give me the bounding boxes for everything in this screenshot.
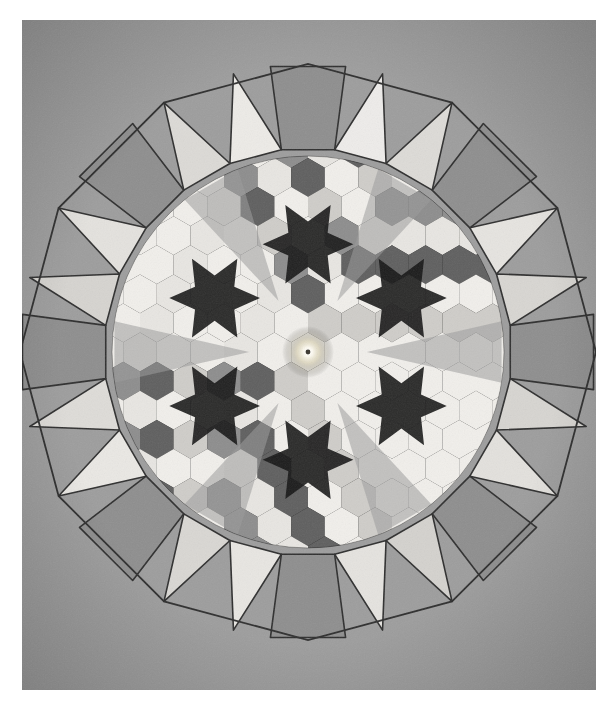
paper-ground bbox=[22, 20, 596, 690]
paper-grain bbox=[22, 20, 596, 690]
artwork-frame bbox=[0, 0, 616, 712]
mosaic-canvas bbox=[22, 20, 596, 690]
